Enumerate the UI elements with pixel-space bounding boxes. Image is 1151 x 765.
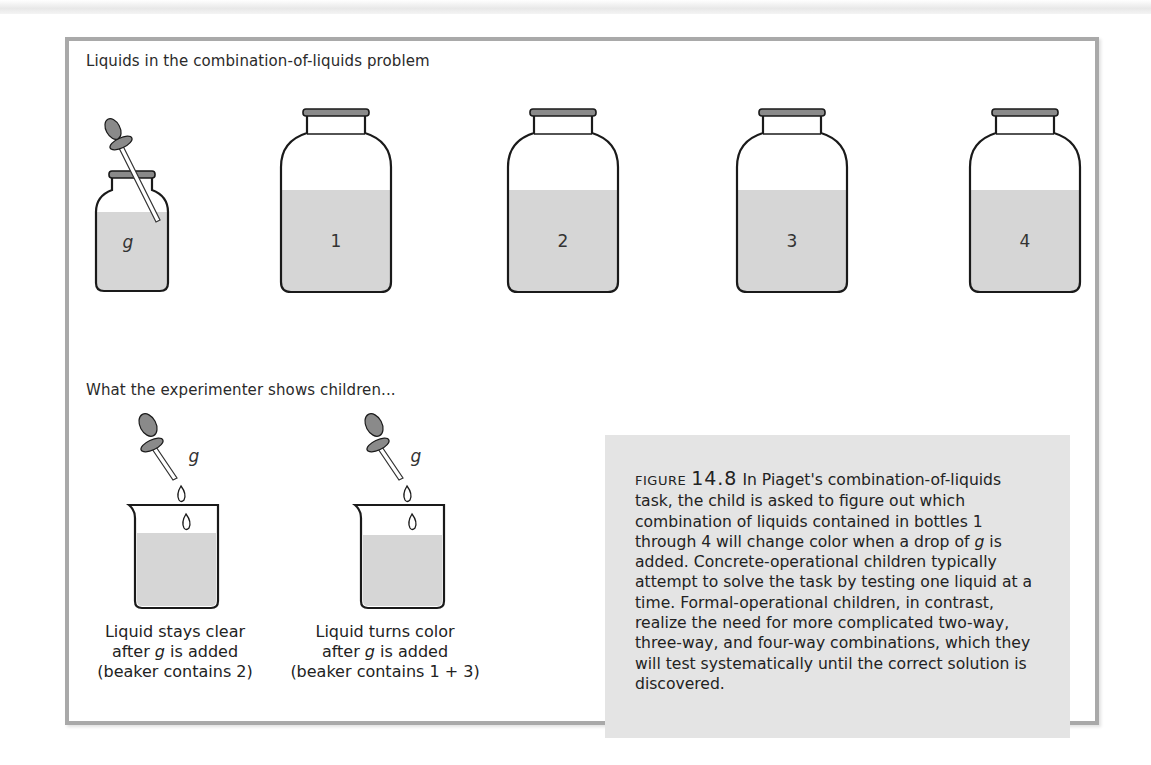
svg-text:g: g bbox=[189, 446, 200, 466]
svg-text:4: 4 bbox=[1020, 231, 1031, 251]
bottle-g: g bbox=[96, 116, 168, 291]
beaker-color-caption: Liquid turns color after g is added (bea… bbox=[285, 622, 485, 682]
figure-caption-box: FIGURE 14.8 In Piaget's combination-of-l… bbox=[605, 435, 1070, 738]
caption-line: after g is added bbox=[285, 642, 485, 662]
figure-number: 14.8 bbox=[691, 467, 737, 489]
dropper-icon bbox=[361, 411, 403, 480]
dropper-icon bbox=[135, 411, 177, 480]
beaker-clear-caption: Liquid stays clear after g is added (bea… bbox=[85, 622, 265, 682]
svg-text:2: 2 bbox=[558, 231, 569, 251]
caption-line: (beaker contains 2) bbox=[85, 662, 265, 682]
bottle-3: 3 bbox=[737, 109, 847, 292]
bottle-1: 1 bbox=[281, 109, 391, 292]
caption-line: after g is added bbox=[85, 642, 265, 662]
beaker-clear: g bbox=[129, 411, 218, 608]
bottle-4: 4 bbox=[970, 109, 1080, 292]
caption-line: Liquid stays clear bbox=[85, 622, 265, 642]
figure-label: FIGURE bbox=[635, 473, 686, 488]
beaker-color: g bbox=[355, 411, 444, 608]
section-heading-experimenter: What the experimenter shows children... bbox=[86, 381, 396, 399]
svg-text:g: g bbox=[123, 232, 134, 252]
svg-text:g: g bbox=[411, 446, 422, 466]
svg-text:1: 1 bbox=[331, 231, 342, 251]
caption-line: Liquid turns color bbox=[285, 622, 485, 642]
figure-caption: FIGURE 14.8 In Piaget's combination-of-l… bbox=[635, 468, 1042, 694]
bottle-2: 2 bbox=[508, 109, 618, 292]
svg-text:3: 3 bbox=[787, 231, 798, 251]
caption-line: (beaker contains 1 + 3) bbox=[285, 662, 485, 682]
